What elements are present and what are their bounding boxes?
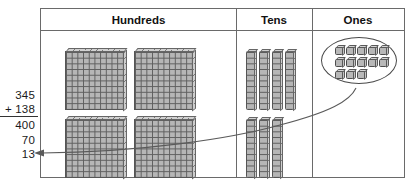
rod-grid	[247, 120, 254, 177]
table-header-row: Hundreds Tens Ones	[41, 9, 404, 31]
rod-side-face	[254, 118, 257, 179]
rod-side-face	[254, 50, 257, 111]
ones-unit-cube	[357, 71, 365, 79]
ones-unit-cube	[368, 59, 376, 67]
rod-side-face	[280, 50, 283, 111]
tens-rod-block	[259, 119, 268, 178]
rod-grid	[286, 52, 293, 109]
column-header-hundreds: Hundreds	[41, 9, 236, 31]
partial-sum-ones: 13	[0, 147, 38, 161]
flat-grid	[135, 52, 192, 109]
rod-grid	[260, 120, 267, 177]
place-value-table: Hundreds Tens Ones	[40, 8, 405, 178]
hundreds-flat-block	[134, 119, 193, 178]
partial-sum-tens: 70	[0, 133, 38, 147]
rod-side-face	[267, 118, 270, 179]
flat-side-face	[192, 117, 196, 179]
ones-unit-cube	[379, 59, 387, 67]
flat-grid	[135, 120, 192, 177]
flat-side-face	[123, 49, 127, 111]
tens-rod-block	[272, 51, 281, 110]
addend-first: 345	[0, 88, 38, 102]
vertical-addition-problem: 345 + 138 400 70 13	[0, 88, 38, 161]
rod-grid	[247, 52, 254, 109]
flat-side-face	[192, 49, 196, 111]
ones-unit-cube	[335, 71, 343, 79]
rod-side-face	[280, 118, 283, 179]
hundreds-flat-block	[65, 51, 124, 110]
ones-unit-cube	[346, 71, 354, 79]
ones-unit-cube	[379, 47, 387, 55]
tens-rod-block	[246, 119, 255, 178]
flat-side-face	[123, 117, 127, 179]
tens-rod-block	[259, 51, 268, 110]
ones-unit-cube	[357, 59, 365, 67]
tens-rod-block	[285, 51, 294, 110]
column-header-tens: Tens	[236, 9, 312, 31]
flat-grid	[66, 52, 123, 109]
tens-rod-block	[272, 119, 281, 178]
column-tens	[237, 31, 312, 177]
hundreds-flat-block	[65, 119, 124, 178]
ones-unit-cube	[357, 47, 365, 55]
partial-sum-hundreds: 400	[0, 118, 38, 132]
hundreds-flat-block	[134, 51, 193, 110]
ones-unit-cube	[335, 47, 343, 55]
ones-unit-cube	[335, 59, 343, 67]
ones-unit-cube	[346, 47, 354, 55]
base-ten-place-value-diagram: 345 + 138 400 70 13 Hundreds Tens Ones	[0, 0, 415, 189]
flat-grid	[66, 120, 123, 177]
column-ones	[313, 31, 404, 177]
column-header-ones: Ones	[312, 9, 404, 31]
ones-unit-cube	[368, 47, 376, 55]
column-hundreds	[41, 31, 236, 177]
tens-rod-block	[246, 51, 255, 110]
rod-grid	[273, 120, 280, 177]
rod-grid	[260, 52, 267, 109]
ones-unit-cube	[346, 59, 354, 67]
rod-side-face	[293, 50, 296, 111]
rod-grid	[273, 52, 280, 109]
addend-second: + 138	[0, 102, 38, 117]
rod-side-face	[267, 50, 270, 111]
